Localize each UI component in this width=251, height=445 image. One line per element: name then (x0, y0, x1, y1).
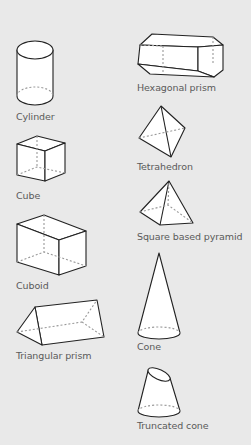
shapes-diagram (0, 0, 251, 445)
triangular-prism-label: Triangular prism (16, 350, 91, 361)
truncated-cone-icon (138, 365, 180, 417)
hexagonal-prism-label: Hexagonal prism (137, 82, 216, 93)
cylinder-icon (17, 41, 53, 105)
cube-icon (17, 136, 65, 181)
cylinder-label: Cylinder (16, 111, 55, 122)
cuboid-label: Cuboid (16, 280, 49, 291)
cone-icon (138, 253, 180, 339)
cube-label: Cube (16, 190, 40, 201)
tetrahedron-label: Tetrahedron (137, 161, 193, 172)
cone-label: Cone (137, 341, 161, 352)
hexagonal-prism-icon (138, 34, 223, 77)
tetrahedron-icon (139, 106, 185, 157)
triangular-prism-icon (17, 300, 104, 345)
truncated-cone-label: Truncated cone (137, 420, 209, 431)
square-based-pyramid-label: Square based pyramid (137, 231, 242, 242)
cuboid-icon (17, 215, 86, 275)
square-based-pyramid-icon (140, 181, 193, 225)
